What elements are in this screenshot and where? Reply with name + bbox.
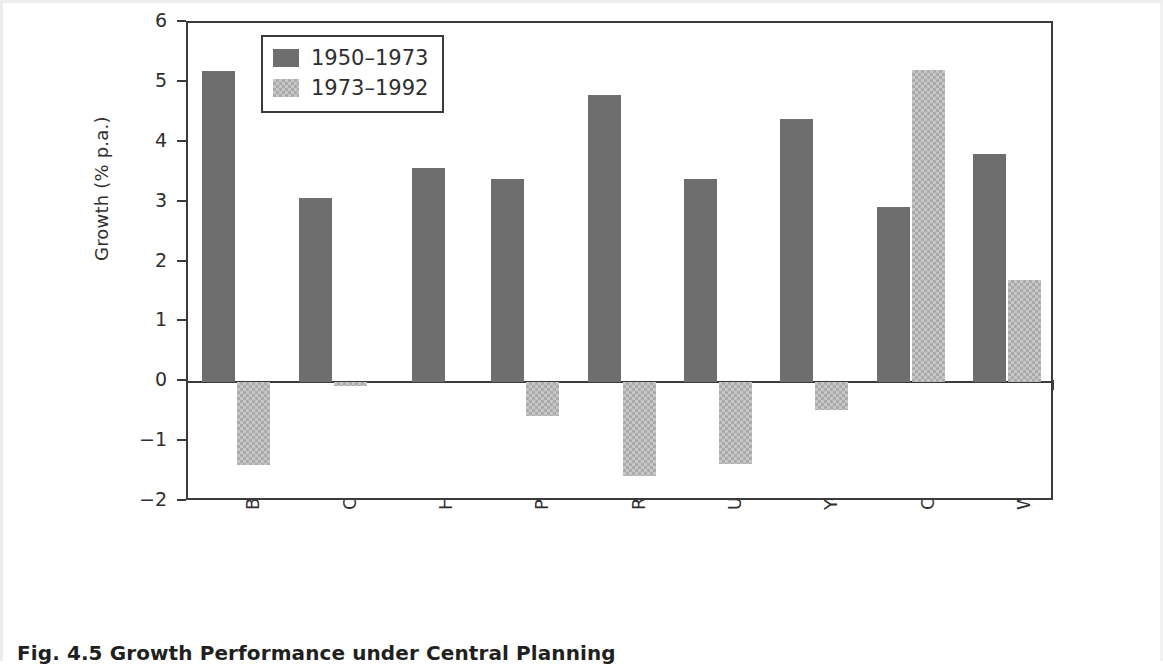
y-tick-mark (177, 439, 186, 441)
y-tick-label: 2 (123, 251, 167, 270)
legend-swatch-icon-0 (273, 49, 299, 67)
chart-legend: 1950–1973 1973–1992 (261, 35, 444, 113)
y-tick-mark (177, 379, 186, 381)
y-tick-label: −1 (123, 430, 167, 449)
bar (334, 382, 367, 386)
bar (877, 207, 910, 382)
bar (237, 382, 270, 465)
y-tick-label: 1 (123, 310, 167, 329)
y-tick-mark (177, 140, 186, 142)
legend-label-1: 1973–1992 (311, 78, 428, 99)
y-tick-label: 4 (123, 131, 167, 150)
bar (719, 382, 752, 463)
y-tick-mark (177, 200, 186, 202)
bar (526, 382, 559, 416)
legend-label-0: 1950–1973 (311, 48, 428, 69)
bar (912, 70, 945, 383)
legend-swatch-icon-1 (273, 79, 299, 97)
y-tick-mark (177, 260, 186, 262)
figure-caption: Fig. 4.5 Growth Performance under Centra… (17, 641, 616, 665)
bar (623, 382, 656, 475)
bar (780, 119, 813, 382)
bar (973, 154, 1006, 383)
legend-entry-1: 1973–1992 (273, 73, 428, 103)
bar (299, 198, 332, 382)
y-tick-mark (177, 20, 186, 22)
legend-entry-0: 1950–1973 (273, 43, 428, 73)
y-tick-mark (177, 319, 186, 321)
y-tick-label: 6 (123, 11, 167, 30)
y-axis-title: Growth (% p.a.) (91, 116, 112, 261)
bar (684, 179, 717, 383)
bar (1008, 280, 1041, 382)
y-tick-label: 0 (123, 370, 167, 389)
bar (588, 95, 621, 382)
y-tick-label: 5 (123, 71, 167, 90)
y-tick-label: 3 (123, 191, 167, 210)
bar (491, 179, 524, 383)
bar (202, 71, 235, 382)
bar (412, 168, 445, 382)
y-tick-mark (177, 80, 186, 82)
bar (815, 382, 848, 410)
y-tick-label: −2 (123, 490, 167, 509)
y-tick-mark (177, 499, 186, 501)
